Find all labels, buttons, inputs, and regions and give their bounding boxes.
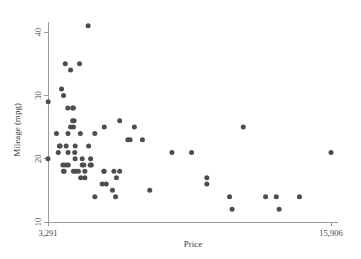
data-point (59, 87, 64, 92)
x-tick-label: 3,291 (38, 228, 57, 238)
data-point (56, 150, 61, 155)
data-point (46, 99, 51, 104)
data-point (169, 150, 174, 155)
x-tick-label: 15,906 (319, 228, 342, 238)
data-point (111, 169, 116, 174)
data-point (80, 163, 85, 168)
data-point (80, 156, 85, 161)
scatter-plot-figure: 10203040 3,29115,906 Mileage (mpg) Price (0, 0, 361, 259)
data-point (241, 125, 246, 130)
data-point (227, 194, 232, 199)
data-point (58, 144, 63, 149)
data-point (110, 188, 115, 193)
data-point (71, 169, 76, 174)
data-point (147, 188, 152, 193)
y-tick-label: 40 (33, 28, 43, 37)
data-point (140, 137, 145, 142)
data-point (189, 150, 194, 155)
data-point (66, 163, 71, 168)
data-point (73, 144, 78, 149)
data-point (230, 207, 235, 212)
data-point (61, 93, 66, 98)
data-point (329, 150, 334, 155)
data-points-layer (46, 23, 334, 212)
data-point (86, 23, 91, 28)
plot-axes (48, 22, 338, 222)
data-point (66, 150, 71, 155)
data-point (132, 125, 137, 130)
data-point (92, 194, 97, 199)
data-point (104, 182, 109, 187)
data-point (78, 131, 83, 136)
data-point (92, 131, 97, 136)
data-point (277, 207, 282, 212)
data-point (65, 131, 70, 136)
data-point (68, 125, 73, 130)
data-point (54, 131, 59, 136)
data-point (82, 169, 87, 174)
data-point (77, 61, 82, 66)
data-point (72, 150, 77, 155)
data-point (65, 106, 70, 111)
data-point (117, 118, 122, 123)
data-point (46, 156, 51, 161)
data-point (114, 175, 119, 180)
y-tick-label: 30 (33, 91, 43, 100)
data-point (102, 169, 107, 174)
data-point (63, 61, 68, 66)
data-point (73, 156, 78, 161)
data-point (71, 106, 76, 111)
data-point (128, 137, 133, 142)
data-point (102, 125, 107, 130)
data-point (70, 118, 75, 123)
data-point (82, 175, 87, 180)
data-point (88, 156, 93, 161)
data-point (64, 144, 69, 149)
data-point (274, 194, 279, 199)
data-point (117, 169, 122, 174)
data-point (68, 68, 73, 73)
plot-canvas: 10203040 3,29115,906 (0, 0, 361, 259)
data-point (86, 144, 91, 149)
y-axis-ticks: 10203040 (33, 28, 48, 226)
data-point (204, 175, 209, 180)
data-point (60, 163, 65, 168)
data-point (76, 169, 81, 174)
y-tick-label: 20 (33, 154, 43, 163)
data-point (89, 163, 94, 168)
data-point (297, 194, 302, 199)
data-point (204, 182, 209, 187)
data-point (61, 169, 66, 174)
data-point (263, 194, 268, 199)
x-axis-ticks: 3,29115,906 (38, 222, 342, 238)
data-point (113, 194, 118, 199)
y-tick-label: 10 (33, 218, 43, 227)
